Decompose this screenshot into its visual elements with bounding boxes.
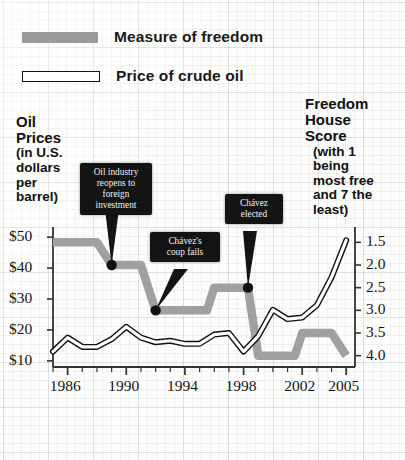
annotation-callout-1: Oil industryreopens toforeigninvestment: [80, 163, 152, 215]
annotation-point-3: [243, 282, 253, 292]
annotation-pointer-2: [156, 269, 188, 310]
annotation-2-line-1: Chávez's: [155, 236, 215, 247]
x-tick-label-1998: 1998: [226, 377, 257, 395]
x-tick-label-2002: 2002: [284, 377, 315, 395]
right-tick-label-2.0: 2.0: [366, 255, 385, 273]
right-tick-label-3.0: 3.0: [366, 300, 385, 318]
left-tick-label-10: $10: [9, 351, 32, 369]
left-tick-label-50: $50: [9, 227, 32, 245]
right-tick-label-4.0: 4.0: [366, 346, 385, 364]
annotation-point-1: [106, 260, 116, 270]
annotation-1-line-2: reopens to: [85, 178, 147, 189]
left-tick-label-20: $20: [9, 320, 32, 338]
annotation-point-2: [150, 305, 160, 315]
annotation-callout-3: Chávezelected: [225, 194, 283, 224]
annotation-pointer-3: [243, 231, 257, 288]
x-tick-label-1994: 1994: [167, 377, 198, 395]
x-tick-label-1986: 1986: [50, 377, 81, 395]
right-tick-label-1.5: 1.5: [366, 232, 385, 250]
annotation-3-line-2: elected: [230, 209, 278, 220]
annotation-1-line-1: Oil industry: [85, 167, 147, 178]
annotation-2-line-2: coup fails: [155, 247, 215, 258]
annotation-1-line-4: investment: [85, 200, 147, 211]
right-tick-label-2.5: 2.5: [366, 278, 385, 296]
x-tick-label-2005: 2005: [328, 377, 359, 395]
left-tick-label-30: $30: [9, 289, 32, 307]
x-tick-label-1990: 1990: [108, 377, 139, 395]
left-tick-label-40: $40: [9, 258, 32, 276]
annotation-3-line-1: Chávez: [230, 198, 278, 209]
right-tick-label-3.5: 3.5: [366, 323, 385, 341]
annotation-1-line-3: foreign: [85, 189, 147, 200]
annotation-callout-2: Chávez'scoup fails: [150, 232, 220, 262]
